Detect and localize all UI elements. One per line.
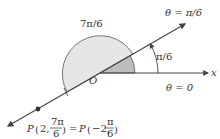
formula-paren: ) — [62, 124, 66, 135]
formula-rhs-den: 6 — [107, 128, 113, 139]
label-small-angle: π/6 — [156, 51, 172, 62]
formula: P ( 2, 7π 6 ) = P ( −2, π 6 ) — [26, 116, 118, 139]
formula-paren: ( — [35, 124, 39, 135]
formula-lhs-r: 2, — [40, 123, 50, 134]
polar-diagram: 7π/6 θ = π/6 π/6 θ = 0 x O P ( 2, 7π 6 )… — [0, 0, 220, 139]
formula-lhs-den: 6 — [53, 128, 59, 139]
formula-lhs-p: P — [26, 123, 34, 134]
formula-rhs-num: π — [107, 116, 114, 127]
formula-paren: ) — [114, 124, 118, 135]
label-7pi6: 7π/6 — [80, 18, 103, 29]
label-origin: O — [89, 75, 97, 86]
label-theta-0: θ = 0 — [166, 82, 194, 93]
formula-equals: = — [69, 123, 77, 134]
label-theta-pi6: θ = π/6 — [165, 7, 203, 18]
formula-rhs-p: P — [78, 123, 86, 134]
point-p — [36, 107, 41, 112]
label-x: x — [211, 67, 217, 78]
formula-paren: ( — [87, 124, 91, 135]
